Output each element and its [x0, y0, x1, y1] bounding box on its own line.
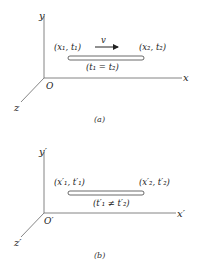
y-prime-axis-label: y′ — [38, 146, 48, 157]
z-prime-axis-label: z′ — [13, 237, 22, 248]
x-prime-axis-label: x′ — [177, 208, 186, 219]
left-event-label: (x₁, t₁) — [54, 42, 81, 52]
panel-b: y′ x′ z′ O′ (x′₁, t′₁) (x′₂, t′₂) (t′₁ ≠… — [13, 146, 186, 260]
right-event-label: (x′₂, t′₂) — [139, 177, 170, 187]
panel-caption: (b) — [94, 251, 105, 260]
simultaneity-label: (t₁ = t₂) — [86, 62, 119, 72]
x-axis-label: x — [183, 72, 189, 83]
non-simultaneity-label: (t′₁ ≠ t′₂) — [93, 198, 130, 208]
rod — [68, 191, 144, 195]
origin-label: O — [46, 81, 54, 91]
origin-prime-label: O′ — [44, 216, 53, 226]
z-axis-label: z — [13, 102, 20, 113]
panel-caption: (a) — [94, 115, 105, 124]
relativity-diagram: y x z O (x₁, t₁) (x₂, t₂) (t₁ = t₂) v (a… — [0, 0, 199, 269]
z-axis — [21, 78, 44, 102]
z-prime-axis — [21, 213, 44, 237]
right-event-label: (x₂, t₂) — [139, 42, 166, 52]
left-event-label: (x′₁, t′₁) — [54, 177, 85, 187]
y-axis-label: y — [38, 10, 45, 21]
velocity-label: v — [101, 35, 106, 45]
panel-a: y x z O (x₁, t₁) (x₂, t₂) (t₁ = t₂) v (a… — [13, 10, 189, 124]
rod — [68, 56, 144, 60]
